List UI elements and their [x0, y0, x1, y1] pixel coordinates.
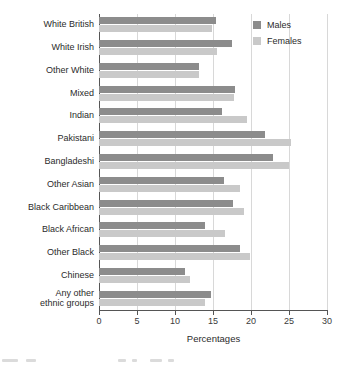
x-tick-label: 15	[203, 316, 223, 327]
legend: Males Females	[253, 20, 302, 52]
chart-category-row: Black African	[99, 219, 327, 242]
bar-females	[99, 71, 199, 78]
chart-category-row: Pakistani	[99, 128, 327, 151]
bar-males	[99, 245, 240, 252]
category-label: Black African	[2, 224, 94, 234]
bar-females	[99, 208, 244, 215]
category-label: Pakistani	[2, 133, 94, 143]
chart-category-row: Bangladeshi	[99, 151, 327, 174]
bar-females	[99, 230, 225, 237]
legend-label-females: Females	[267, 36, 302, 46]
bar-females	[99, 48, 217, 55]
category-label: Other Black	[2, 247, 94, 257]
bar-males	[99, 131, 265, 138]
legend-swatch-females	[253, 37, 261, 45]
category-label: Any other ethnic groups	[2, 288, 94, 308]
bar-males	[99, 291, 211, 298]
chart-category-row: Chinese	[99, 264, 327, 287]
bar-females	[99, 299, 205, 306]
legend-swatch-males	[253, 21, 261, 29]
x-tick-label: 5	[127, 316, 147, 327]
bar-females	[99, 116, 247, 123]
bar-males	[99, 177, 224, 184]
category-label: Other Asian	[2, 179, 94, 189]
x-tick-label: 10	[165, 316, 185, 327]
bar-females	[99, 162, 289, 169]
chart-category-row: Other Asian	[99, 173, 327, 196]
bar-females	[99, 94, 234, 101]
category-label: Other White	[2, 65, 94, 75]
chart-category-row: Indian	[99, 105, 327, 128]
x-tick-mark	[327, 311, 328, 315]
chart-category-row: Any other ethnic groups	[99, 287, 327, 310]
legend-label-males: Males	[267, 20, 291, 30]
bar-males	[99, 40, 232, 47]
chart-category-row: Other White	[99, 60, 327, 83]
x-tick-label: 30	[317, 316, 337, 327]
x-axis-title: Percentages	[99, 333, 328, 344]
legend-item-females[interactable]: Females	[253, 36, 302, 46]
x-tick-label: 20	[241, 316, 261, 327]
bar-males	[99, 222, 205, 229]
bar-females	[99, 253, 250, 260]
plot-area: White BritishWhite IrishOther WhiteMixed…	[99, 14, 327, 310]
bar-females	[99, 139, 291, 146]
chart-category-row: Mixed	[99, 82, 327, 105]
category-label: Bangladeshi	[2, 156, 94, 166]
x-tick-mark	[251, 311, 252, 315]
category-label: White British	[2, 19, 94, 29]
x-tick-label: 0	[89, 316, 109, 327]
bar-males	[99, 200, 233, 207]
legend-item-males[interactable]: Males	[253, 20, 302, 30]
category-label: Black Caribbean	[2, 202, 94, 212]
bar-chart: 051015202530 White BritishWhite IrishOth…	[0, 0, 346, 366]
bar-males	[99, 154, 273, 161]
x-tick-mark	[137, 311, 138, 315]
x-tick-mark	[175, 311, 176, 315]
x-tick-mark	[289, 311, 290, 315]
gridline	[327, 14, 328, 310]
bar-males	[99, 17, 216, 24]
x-tick-mark	[213, 311, 214, 315]
bar-males	[99, 86, 235, 93]
bar-males	[99, 268, 185, 275]
bar-females	[99, 276, 190, 283]
category-label: White Irish	[2, 42, 94, 52]
chart-category-row: Black Caribbean	[99, 196, 327, 219]
x-tick-label: 25	[279, 316, 299, 327]
category-label: Chinese	[2, 270, 94, 280]
bar-females	[99, 185, 240, 192]
bar-males	[99, 108, 222, 115]
category-label: Indian	[2, 110, 94, 120]
page-artifact-strip	[0, 355, 346, 366]
category-label: Mixed	[2, 88, 94, 98]
x-tick-mark	[99, 311, 100, 315]
bar-males	[99, 63, 199, 70]
bar-females	[99, 25, 212, 32]
chart-category-row: Other Black	[99, 242, 327, 265]
